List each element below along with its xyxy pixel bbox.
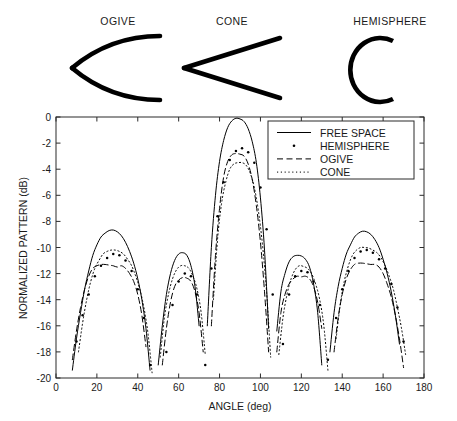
data-line [213, 162, 270, 357]
y-tick-label: -16 [37, 320, 51, 331]
data-marker [204, 364, 207, 367]
y-tick-label: -20 [37, 373, 51, 384]
data-marker [171, 304, 174, 307]
data-marker [100, 265, 103, 268]
series-hemisphere [75, 147, 405, 366]
x-tick-label: 40 [132, 382, 143, 393]
data-marker [106, 257, 109, 260]
radiation-pattern-figure: OGIVE CONE HEMISPHERE 020406080100120140… [0, 0, 457, 421]
data-marker [372, 251, 375, 254]
data-marker [130, 270, 133, 273]
data-marker [259, 186, 262, 189]
data-line [207, 118, 268, 328]
data-line [277, 276, 322, 352]
data-marker [235, 150, 238, 153]
y-tick-label: -8 [42, 216, 51, 227]
y-axis-title: NORMALIZED PATTERN (dB) [17, 177, 29, 319]
data-line [336, 247, 406, 354]
data-marker [265, 228, 268, 231]
data-marker [378, 258, 381, 261]
series-cone [78, 162, 405, 372]
y-tick-label: -6 [42, 190, 51, 201]
data-marker [241, 147, 244, 150]
x-tick-label: 120 [293, 382, 310, 393]
data-line [72, 264, 146, 359]
data-marker [366, 249, 369, 252]
y-tick-label: -14 [37, 294, 51, 305]
x-tick-label: 140 [334, 382, 351, 393]
legend-label-cone: CONE [320, 166, 350, 178]
legend-sample-marker [293, 144, 296, 147]
data-marker [253, 161, 256, 164]
data-marker [112, 253, 115, 256]
legend-label-free-space: FREE SPACE [320, 127, 386, 139]
data-marker [118, 254, 121, 257]
data-line [72, 230, 150, 370]
data-marker [359, 250, 362, 253]
x-tick-label: 160 [375, 382, 392, 393]
y-tick-label: -10 [37, 242, 51, 253]
x-tick-label: 180 [416, 382, 433, 393]
y-tick-label: -18 [37, 346, 51, 357]
series-ogive [72, 154, 403, 368]
x-tick-label: 80 [214, 382, 225, 393]
data-marker [271, 293, 274, 296]
data-marker [190, 275, 193, 278]
data-line [162, 277, 203, 365]
data-line [277, 255, 322, 365]
data-marker [282, 343, 285, 346]
data-line [158, 253, 199, 365]
y-tick-label: 0 [45, 112, 51, 123]
y-tick-label: -12 [37, 268, 51, 279]
x-tick-label: 20 [91, 382, 102, 393]
data-marker [306, 271, 309, 274]
data-line [160, 265, 205, 357]
data-marker [184, 272, 187, 275]
data-marker [94, 275, 97, 278]
x-tick-label: 60 [173, 382, 184, 393]
data-marker [75, 340, 78, 343]
x-axis-title: ANGLE (deg) [208, 400, 271, 412]
data-marker [143, 317, 146, 320]
legend-label-ogive: OGIVE [320, 153, 353, 165]
y-tick-label: -4 [42, 164, 51, 175]
data-marker [210, 267, 213, 270]
data-marker [81, 314, 84, 317]
x-tick-label: 100 [252, 382, 269, 393]
data-marker [124, 259, 127, 262]
data-marker [300, 270, 303, 273]
data-marker [165, 351, 168, 354]
data-marker [247, 151, 250, 154]
data-line [211, 154, 268, 352]
data-marker [335, 317, 338, 320]
data-marker [288, 293, 291, 296]
pattern-plot [0, 0, 457, 421]
x-tick-label: 0 [53, 382, 59, 393]
y-tick-label: -2 [42, 138, 51, 149]
data-marker [353, 257, 356, 260]
legend-label-hemisphere: HEMISPHERE [320, 140, 389, 152]
data-line [330, 231, 400, 352]
